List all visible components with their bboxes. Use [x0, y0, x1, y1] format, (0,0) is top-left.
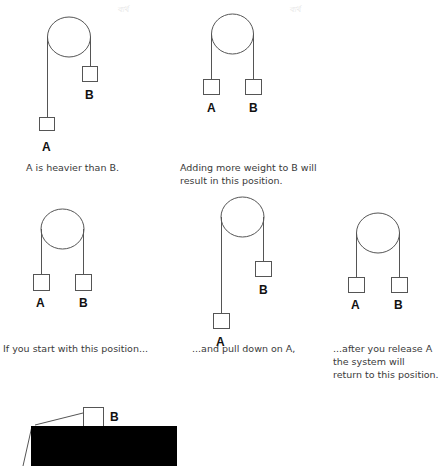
- black-occluding-block: [31, 426, 177, 466]
- weight-b: [76, 275, 92, 291]
- pulley-diagram-5: [349, 213, 408, 293]
- rope-a: [23, 426, 32, 466]
- weight-a: [349, 278, 365, 293]
- pulley-wheel: [212, 14, 254, 54]
- weight-b: [84, 408, 104, 427]
- pulley-diagrams-canvas: B A A B A B B A A B B ব্যর্থ ব্যর্থ: [0, 0, 440, 466]
- caption-diagram-3: If you start with this position...: [3, 342, 148, 355]
- pulley-diagram-1: [40, 17, 98, 131]
- weight-a: [204, 80, 220, 95]
- pulley-wheel: [41, 209, 84, 249]
- pulley-diagram-2: [204, 14, 262, 95]
- caption-diagram-1: A is heavier than B.: [26, 161, 119, 174]
- label-a: A: [351, 298, 360, 312]
- label-b: B: [79, 296, 88, 310]
- weight-a: [34, 275, 50, 291]
- label-a: A: [207, 101, 216, 115]
- label-b: B: [394, 298, 403, 312]
- caption-diagram-2: Adding more weight to B will result in t…: [180, 161, 317, 187]
- watermark: ব্যর্থ: [289, 5, 302, 14]
- label-b: B: [249, 101, 258, 115]
- pulley-diagram-3: [34, 209, 92, 291]
- weight-a: [40, 118, 55, 131]
- caption-diagram-5: ...after you release A the system will r…: [333, 342, 439, 381]
- pulley-wheel: [221, 197, 264, 237]
- weight-b: [392, 278, 408, 293]
- label-a: A: [42, 140, 51, 154]
- watermark: ব্যর্থ: [117, 5, 130, 14]
- pulley-diagram-4: [214, 197, 272, 329]
- weight-a: [214, 314, 230, 329]
- weight-b: [256, 262, 272, 277]
- label-b: B: [110, 410, 119, 424]
- pulley-wheel: [357, 213, 400, 253]
- label-b: B: [85, 88, 94, 102]
- label-a: A: [36, 296, 45, 310]
- weight-b: [83, 67, 98, 82]
- pulley-wheel: [48, 17, 91, 57]
- rope-b: [35, 413, 83, 425]
- weight-b: [246, 80, 262, 95]
- label-b: B: [259, 283, 268, 297]
- caption-diagram-4: ...and pull down on A,: [192, 342, 295, 355]
